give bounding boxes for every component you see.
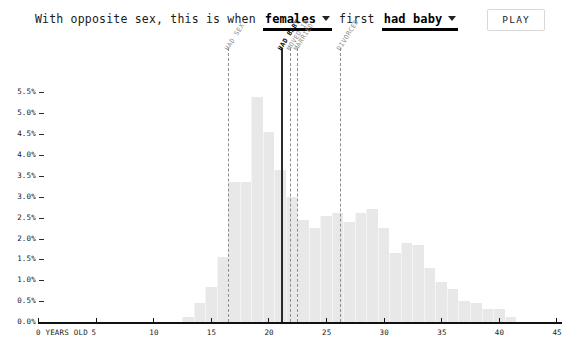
x-axis-tick-label: 15	[207, 328, 216, 337]
y-axis-tick-label: 1.0%	[2, 275, 36, 284]
x-axis-tick-label: 35	[437, 328, 446, 337]
annotation-line	[228, 48, 230, 322]
y-axis-tick-mark	[39, 301, 44, 302]
y-axis-tick-label: 1.5%	[2, 254, 36, 263]
x-axis-tick-mark	[384, 318, 385, 322]
x-axis-tick-mark	[556, 318, 557, 322]
annotation-line	[290, 48, 292, 322]
y-axis-tick-label: 4.0%	[2, 150, 36, 159]
histogram-bar	[378, 228, 390, 322]
histogram-bar	[389, 253, 401, 322]
x-axis-tick-label: 10	[149, 328, 158, 337]
histogram-bar	[366, 209, 378, 322]
histogram-bar	[470, 303, 482, 322]
histogram-bar	[194, 303, 206, 322]
y-axis-tick-mark	[39, 259, 44, 260]
histogram-bar	[355, 213, 367, 322]
y-axis-tick-mark	[39, 134, 44, 135]
y-axis-tick-label: 2.0%	[2, 234, 36, 243]
x-axis-tick-mark	[326, 318, 327, 322]
histogram-bar	[274, 170, 286, 322]
y-axis-tick-label: 3.0%	[2, 192, 36, 201]
histogram-bar	[458, 301, 470, 322]
y-axis-tick-label: 4.5%	[2, 129, 36, 138]
y-axis-tick-mark	[39, 92, 44, 93]
x-axis-tick-label: 25	[322, 328, 331, 337]
x-axis-tick-label: 30	[380, 328, 389, 337]
play-button[interactable]: PLAY	[487, 9, 545, 31]
histogram-bar	[320, 216, 332, 322]
x-axis-tick-label: 5	[92, 328, 97, 337]
y-axis-tick-mark	[39, 280, 44, 281]
histogram-chart: 0.0%0.5%1.0%1.5%2.0%2.5%3.0%3.5%4.0%4.5%…	[0, 40, 580, 342]
histogram-bar	[263, 132, 275, 322]
y-axis-tick-label: 3.5%	[2, 171, 36, 180]
y-axis-tick-label: 0.5%	[2, 296, 36, 305]
x-axis-tick-label: 0 YEARS OLD	[36, 328, 88, 337]
y-axis-tick-label: 0.0%	[2, 317, 36, 326]
x-axis-tick-mark	[441, 318, 442, 322]
histogram-bar	[424, 268, 436, 322]
annotation-line	[281, 48, 283, 322]
x-axis-tick-mark	[153, 318, 154, 322]
plot-area: 0.0%0.5%1.0%1.5%2.0%2.5%3.0%3.5%4.0%4.5%…	[0, 40, 580, 342]
x-axis-tick-mark	[211, 318, 212, 322]
histogram-bar	[240, 182, 252, 322]
y-axis-tick-mark	[39, 113, 44, 114]
y-axis-tick-label: 2.5%	[2, 213, 36, 222]
histogram-bar	[435, 282, 447, 322]
annotation-line	[297, 48, 299, 322]
annotation-line	[340, 48, 342, 322]
x-axis-tick-mark	[499, 318, 500, 322]
histogram-bar	[309, 228, 321, 322]
x-axis-tick-label: 40	[495, 328, 504, 337]
x-axis-line	[38, 322, 562, 324]
y-axis-tick-mark	[39, 155, 44, 156]
histogram-bar	[251, 97, 263, 322]
y-axis-tick-label: 5.5%	[2, 87, 36, 96]
x-axis-tick-mark	[38, 318, 39, 322]
histogram-bar	[447, 289, 459, 322]
y-axis-tick-mark	[39, 197, 44, 198]
chevron-down-icon	[322, 16, 330, 21]
sentence-prefix: With opposite sex, this is when	[35, 12, 256, 26]
event-dropdown[interactable]: had baby	[382, 12, 459, 31]
x-axis-tick-label: 20	[264, 328, 273, 337]
histogram-bar	[412, 245, 424, 322]
y-axis-tick-mark	[39, 176, 44, 177]
histogram-bar	[205, 287, 217, 322]
histogram-bar	[401, 243, 413, 322]
y-axis-tick-mark	[39, 239, 44, 240]
histogram-bar	[343, 222, 355, 322]
x-axis-tick-mark	[96, 318, 97, 322]
y-axis-tick-mark	[39, 218, 44, 219]
x-axis-tick-label: 45	[552, 328, 561, 337]
histogram-bar	[217, 257, 229, 322]
event-dropdown-label: had baby	[384, 12, 443, 26]
y-axis-tick-label: 5.0%	[2, 108, 36, 117]
chevron-down-icon	[448, 16, 456, 21]
histogram-bar	[482, 309, 494, 322]
x-axis-tick-mark	[268, 318, 269, 322]
